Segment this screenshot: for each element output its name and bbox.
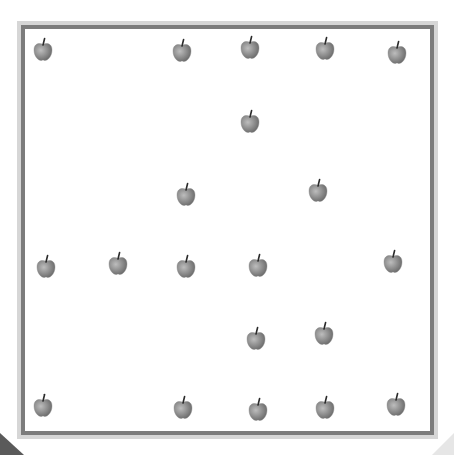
apple-icon <box>314 394 336 420</box>
apple-icon <box>247 396 269 422</box>
apple-icon <box>171 37 193 63</box>
apple-icon <box>35 253 57 279</box>
apple-icon <box>307 177 329 203</box>
page-corner-dark <box>0 433 24 455</box>
apple-icon <box>175 253 197 279</box>
apple-icon <box>382 248 404 274</box>
frame-inner-border <box>21 25 434 435</box>
apple-icon <box>32 392 54 418</box>
apple-icon <box>175 181 197 207</box>
page-corner-light <box>432 433 454 455</box>
apple-icon <box>239 34 261 60</box>
apple-icon <box>386 39 408 65</box>
apple-icon <box>314 35 336 61</box>
apple-icon <box>245 325 267 351</box>
apple-icon <box>172 394 194 420</box>
apple-icon <box>239 108 261 134</box>
apple-icon <box>313 320 335 346</box>
apple-icon <box>247 252 269 278</box>
apple-icon <box>32 36 54 62</box>
apple-icon <box>107 250 129 276</box>
apple-icon <box>385 391 407 417</box>
